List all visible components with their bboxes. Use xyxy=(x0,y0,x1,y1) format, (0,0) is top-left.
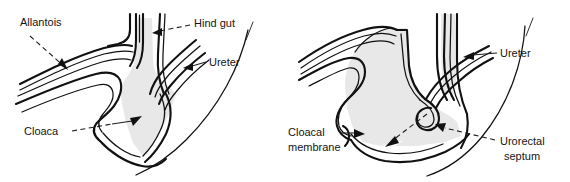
panel-early-cloaca-stage: Allantois Hind gut Ureter Cloaca xyxy=(0,0,285,182)
rectal-posterior-wall xyxy=(461,114,468,148)
label-ureter-right: Ureter xyxy=(500,47,531,59)
body-wall-tick xyxy=(246,22,253,40)
cloacal-membrane-outer xyxy=(100,141,166,167)
label-urorectal-septum-line1: Urorectal xyxy=(500,135,545,147)
gut-roof-fold xyxy=(108,14,130,46)
label-cloacal-membrane-line2: membrane xyxy=(288,141,341,153)
embryology-figure: Allantois Hind gut Ureter Cloaca xyxy=(0,0,570,182)
label-hind-gut: Hind gut xyxy=(194,17,235,29)
label-ureter-left: Ureter xyxy=(209,56,240,68)
body-wall-tick-right xyxy=(526,18,533,36)
allantois-upper-wall xyxy=(20,45,132,84)
label-cloacal-membrane-line1: Cloacal xyxy=(288,126,325,138)
cloaca-leader xyxy=(72,124,112,131)
hind-gut-arrowhead xyxy=(152,28,162,36)
panel-urorectal-septum-stage: Ureter Cloacal membrane Urorectal septum xyxy=(285,0,570,182)
label-cloaca: Cloaca xyxy=(24,125,59,137)
label-allantois: Allantois xyxy=(20,16,62,28)
allantois-arrowhead xyxy=(58,58,68,70)
label-urorectal-septum-line2: septum xyxy=(504,150,540,162)
